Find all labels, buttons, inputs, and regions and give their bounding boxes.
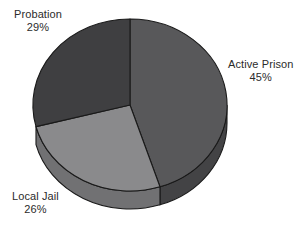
pie-label-active-prison-value: 45% <box>228 71 294 84</box>
pie-chart: Probation 29% Active Prison 45% Local Ja… <box>0 0 304 228</box>
pie-label-local-jail-value: 26% <box>12 203 59 216</box>
pie-label-local-jail-name: Local Jail <box>12 190 59 203</box>
pie-top-face <box>33 19 227 191</box>
pie-label-active-prison: Active Prison 45% <box>228 58 294 84</box>
pie-label-active-prison-name: Active Prison <box>228 58 294 71</box>
pie-label-probation: Probation 29% <box>14 8 62 34</box>
pie-label-probation-name: Probation <box>14 8 62 21</box>
pie-label-local-jail: Local Jail 26% <box>12 190 59 216</box>
pie-label-probation-value: 29% <box>14 21 62 34</box>
